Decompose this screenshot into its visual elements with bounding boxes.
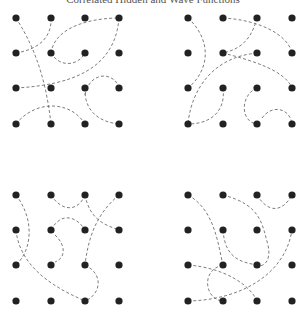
- dashed-curve: [51, 218, 85, 230]
- grid-dot: [253, 261, 260, 268]
- grid-dot: [81, 49, 88, 56]
- grid-dot: [219, 49, 226, 56]
- dashed-curve: [223, 18, 292, 53]
- grid-dot: [288, 84, 295, 91]
- grid-dot: [253, 120, 260, 127]
- dashed-curve: [16, 18, 51, 124]
- grid-dot: [81, 120, 88, 127]
- grid-dot: [253, 14, 260, 21]
- panel-bottom-right: [184, 191, 295, 304]
- grid-dot: [12, 120, 19, 127]
- grid-dot: [115, 120, 122, 127]
- grid-dot: [12, 297, 19, 304]
- grid-dot: [47, 261, 54, 268]
- grid-dot: [219, 120, 226, 127]
- grid-dot: [253, 49, 260, 56]
- dashed-curve: [262, 109, 292, 124]
- grid-dot: [288, 14, 295, 21]
- grid-dot: [253, 84, 260, 91]
- dashed-curve: [223, 18, 257, 53]
- grid-dot: [184, 226, 191, 233]
- dashed-curve: [188, 230, 292, 301]
- grid-dot: [288, 191, 295, 198]
- grid-dot: [184, 297, 191, 304]
- dashed-curve: [51, 18, 119, 53]
- grid-dot: [115, 226, 122, 233]
- grid-dot: [184, 191, 191, 198]
- grid-dot: [12, 49, 19, 56]
- grid-dot: [219, 14, 226, 21]
- grid-dot: [115, 49, 122, 56]
- grid-dot: [288, 261, 295, 268]
- grid-dot: [115, 261, 122, 268]
- grid-dot: [253, 226, 260, 233]
- grid-dot: [81, 226, 88, 233]
- grid-dot: [219, 191, 226, 198]
- panel-top-left: [12, 14, 122, 127]
- grid-dot: [219, 226, 226, 233]
- grid-dot: [47, 297, 54, 304]
- dashed-curve: [188, 88, 223, 124]
- grid-dot: [81, 261, 88, 268]
- grid-dot: [12, 191, 19, 198]
- dashed-curve: [188, 195, 223, 265]
- dashed-curve: [85, 195, 119, 230]
- dashed-curve: [257, 195, 292, 209]
- grid-dot: [47, 191, 54, 198]
- dashed-curve: [16, 18, 119, 88]
- dashed-curve: [223, 53, 292, 88]
- grid-dot: [253, 297, 260, 304]
- dashed-curve: [223, 195, 269, 266]
- grid-dot: [184, 14, 191, 21]
- grid-dot: [115, 84, 122, 91]
- grid-dot: [219, 261, 226, 268]
- grid-dot: [184, 261, 191, 268]
- grid-dot: [81, 297, 88, 304]
- dashed-curve: [223, 230, 257, 265]
- panel-top-right: [184, 14, 295, 127]
- grid-dot: [12, 261, 19, 268]
- grid-dot: [81, 14, 88, 21]
- grid-dot: [47, 14, 54, 21]
- grid-dot: [184, 49, 191, 56]
- dashed-curve: [244, 88, 257, 124]
- grid-dot: [12, 226, 19, 233]
- dashed-curve: [85, 88, 119, 124]
- grid-dot: [81, 84, 88, 91]
- grid-dot: [253, 191, 260, 198]
- grid-dot: [288, 120, 295, 127]
- dashed-curve: [16, 18, 51, 53]
- panel-bottom-left: [12, 191, 122, 304]
- dashed-curve: [85, 195, 119, 265]
- grid-dot: [47, 226, 54, 233]
- grid-dot: [219, 84, 226, 91]
- grid-dot: [47, 84, 54, 91]
- grid-dot: [288, 226, 295, 233]
- grid-dot: [12, 14, 19, 21]
- grid-dot: [47, 120, 54, 127]
- dashed-curve: [85, 265, 98, 301]
- grid-dot: [288, 297, 295, 304]
- grid-dot: [219, 297, 226, 304]
- quadrant-diagram: [0, 0, 306, 311]
- grid-dot: [184, 120, 191, 127]
- grid-dot: [184, 84, 191, 91]
- dashed-curve: [55, 235, 63, 262]
- grid-dot: [115, 297, 122, 304]
- grid-dot: [115, 191, 122, 198]
- dashed-curve: [51, 195, 85, 208]
- dashed-curve: [85, 76, 119, 95]
- grid-dot: [288, 49, 295, 56]
- grid-dot: [115, 14, 122, 21]
- grid-dot: [47, 49, 54, 56]
- grid-dot: [81, 191, 88, 198]
- dashed-curve: [188, 265, 257, 301]
- dashed-curve: [51, 53, 85, 64]
- grid-dot: [12, 84, 19, 91]
